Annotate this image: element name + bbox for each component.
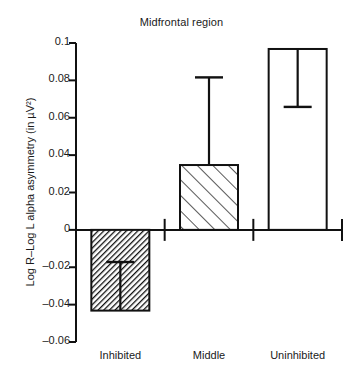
plot-area [0, 0, 363, 377]
bar-middle[interactable] [180, 165, 238, 230]
chart-figure: Midfrontal region Log R–Log L alpha asym… [0, 0, 363, 377]
